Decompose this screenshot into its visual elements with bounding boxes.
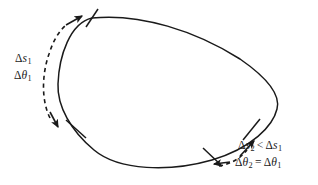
label-delta-theta-1-delta: Δ <box>14 69 22 81</box>
relation-s-left-sub: 2 <box>250 144 255 153</box>
tick-bottom-left <box>66 120 86 138</box>
label-delta-s-1: Δs1 <box>15 52 32 66</box>
left-dashed-guide-arc <box>44 25 67 118</box>
label-delta-theta-1: Δθ1 <box>14 69 32 83</box>
relation-theta-left-delta: Δ <box>235 156 243 168</box>
relation-s-left-delta: Δ <box>238 139 246 151</box>
figure-container: Δs1 Δθ1 Δs2<Δs1 Δθ2=Δθ1 <box>0 0 318 185</box>
label-delta-theta-1-sub: 1 <box>27 74 32 83</box>
relation-theta-operator: = <box>253 156 264 168</box>
relation-theta-right-sub: 1 <box>277 161 282 170</box>
left-arc-arrow-down-icon <box>50 112 58 127</box>
label-delta-s-1-delta: Δ <box>15 52 23 64</box>
relation-s-operator: < <box>255 139 266 151</box>
relation-s-right-var: s <box>273 139 278 151</box>
relation-s-right-sub: 1 <box>278 144 283 153</box>
label-relation-delta-s: Δs2<Δs1 <box>238 139 282 153</box>
relation-s-right-delta: Δ <box>266 139 274 151</box>
label-relation-delta-theta: Δθ2=Δθ1 <box>235 156 282 170</box>
label-delta-s-1-sub: 1 <box>27 57 32 66</box>
